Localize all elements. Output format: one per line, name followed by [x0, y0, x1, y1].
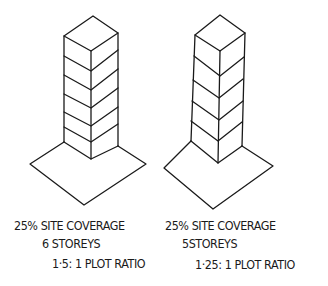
left-plot-ratio: 1·5: 1 PLOT RATIO	[52, 256, 145, 271]
edge-front-r	[218, 51, 220, 163]
edge-right-r	[242, 33, 245, 146]
floor-lines-right	[191, 56, 244, 163]
left-storeys: 6 STOREYS	[42, 236, 100, 251]
roof-right	[195, 15, 245, 51]
left-site-coverage: 25% SITE COVERAGE	[14, 218, 125, 233]
right-storeys: 5STOREYS	[182, 236, 237, 251]
right-site-coverage: 25% SITE COVERAGE	[165, 218, 276, 233]
site-plot-left	[30, 142, 146, 205]
tower-6-storeys	[30, 16, 146, 205]
right-plot-ratio: 1·25: 1 PLOT RATIO	[195, 257, 295, 272]
edge-left-r	[191, 35, 195, 141]
tower-5-storeys	[164, 15, 273, 209]
roof-left	[64, 16, 118, 51]
